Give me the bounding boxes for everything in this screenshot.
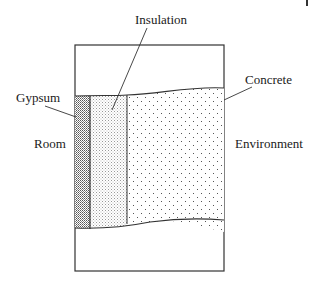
gypsum-layer [75,80,90,240]
label-concrete: Concrete [245,72,292,87]
label-room: Room [34,136,66,151]
concrete-leader [224,87,252,100]
insulation-layer [90,80,127,240]
label-environment: Environment [235,136,303,151]
wall-diagram: Insulation Concrete Gypsum Room Environm… [0,0,312,286]
concrete-layer [127,80,224,240]
label-insulation: Insulation [135,12,187,27]
gypsum-leader [45,106,76,117]
label-gypsum: Gypsum [16,90,60,105]
edge-artifact [306,0,308,6]
